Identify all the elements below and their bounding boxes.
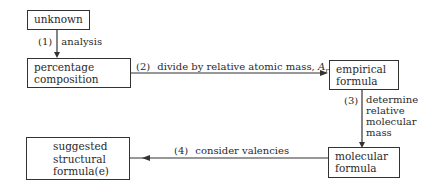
node-empirical-line2: formula [336, 75, 392, 87]
step-2-subscript: r [325, 67, 328, 75]
step-1-number: (1) [38, 36, 52, 47]
step-3-line3: molecular [366, 116, 418, 127]
step-4-label: (4) consider valencies [174, 145, 289, 156]
node-suggested-structural-formula: suggested structural formula(e) [26, 137, 130, 180]
node-molecular-formula: molecular formula [328, 147, 400, 178]
step-3-line4: mass [366, 127, 418, 138]
step-1-text: analysis [61, 36, 102, 47]
step-3-text: determine relative molecular mass [366, 94, 418, 138]
node-empirical-line1: empirical [336, 63, 392, 75]
node-percentage-line2: composition [34, 73, 124, 85]
node-unknown: unknown [27, 10, 90, 30]
step-2-label: (2) divide by relative atomic mass, Ar [136, 61, 328, 77]
step-3-line2: relative [366, 105, 418, 116]
node-percentage-line1: percentage [34, 61, 124, 73]
node-molecular-line2: formula [335, 162, 393, 174]
step-2-text: divide by relative atomic mass, [157, 61, 314, 72]
node-percentage-composition: percentage composition [27, 58, 131, 88]
step-3-number: (3) [344, 95, 358, 106]
node-structural-line2: structural [53, 153, 123, 166]
node-structural-line1: suggested [53, 140, 123, 153]
step-3-line1: determine [366, 94, 418, 105]
step-1-label: (1) analysis [38, 36, 102, 47]
node-molecular-line1: molecular [335, 150, 393, 162]
node-unknown-label: unknown [34, 13, 83, 25]
step-2-number: (2) [136, 61, 150, 72]
node-structural-line3: formula(e) [53, 165, 123, 178]
step-4-number: (4) [174, 145, 188, 156]
step-4-text: consider valencies [195, 145, 289, 156]
node-empirical-formula: empirical formula [329, 60, 399, 90]
